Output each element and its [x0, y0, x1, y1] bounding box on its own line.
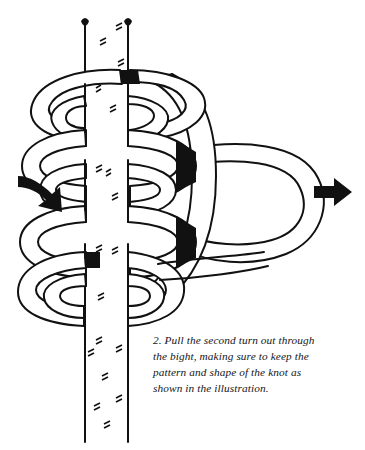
caption-text: 2. Pull the second turn out through the … [153, 333, 338, 397]
figure-panel: 2. Pull the second turn out through the … [0, 0, 365, 450]
caption-line-1: 2. Pull the second turn out through [153, 333, 338, 349]
caption-line-4: shown in the illustration. [153, 381, 338, 397]
caption-line-3: pattern and shape of the knot as [153, 365, 338, 381]
caption-line-2: the bight, making sure to keep the [153, 349, 338, 365]
